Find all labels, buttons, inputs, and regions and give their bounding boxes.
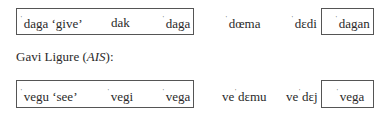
form-2-6: ˈvega: [336, 89, 364, 103]
form-2-4: veˈdɛmu: [222, 89, 267, 103]
form-1-5: ˈdɛdi: [291, 16, 317, 30]
form-2-5: veˈdɛj: [286, 89, 318, 103]
form-1-3: ˈdaga: [162, 16, 190, 30]
form-1-4: ˈdœma: [225, 16, 260, 30]
section-heading: Gavi Ligure (AIS):: [16, 50, 114, 63]
form-1-2: dak: [111, 16, 130, 29]
form-1-1: ˈdaga ‘give’: [20, 16, 83, 30]
form-1-6: ˈdagan: [335, 16, 370, 30]
form-2-1: ˈvegu ‘see’: [20, 89, 77, 103]
form-2-3: ˈvega: [162, 89, 190, 103]
form-2-2: ˈvegi: [107, 89, 133, 103]
